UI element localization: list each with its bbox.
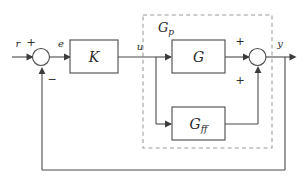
arrowhead-feedback-in — [39, 67, 46, 74]
plant-group-label: Gp — [158, 20, 174, 37]
signal-label-control: u — [137, 41, 143, 52]
signal-label-error: e — [58, 38, 64, 49]
controller-block-label: K — [88, 49, 101, 65]
feedforward-label-base: G — [190, 116, 201, 132]
controller-label-base: K — [88, 49, 101, 65]
plant-label-base: G — [193, 49, 204, 65]
plant-group-label-base: G — [158, 20, 168, 35]
signal-label-reference: r — [16, 38, 22, 49]
error-summer[interactable] — [33, 49, 50, 66]
arrowhead-feedforward-in — [165, 121, 172, 128]
output-summer[interactable] — [249, 49, 266, 66]
arrowhead-plant-in — [165, 54, 172, 61]
sign-reference-plus: + — [26, 36, 35, 49]
arrowhead-output-y — [290, 54, 297, 61]
plant-group-label-sub: p — [168, 26, 174, 36]
block-diagram-canvas: K G Gff Gp r e u y + − + + — [0, 0, 305, 179]
sign-feedback-minus: − — [47, 73, 56, 86]
plant-block-label: G — [193, 49, 204, 65]
arrowhead-output-summer-bottom — [255, 66, 262, 73]
sign-plant-plus: + — [235, 35, 244, 48]
signal-label-output: y — [276, 38, 283, 49]
block-diagram: K G Gff Gp r e u y + − + + — [0, 0, 305, 179]
sign-feedforward-plus: + — [235, 74, 244, 87]
